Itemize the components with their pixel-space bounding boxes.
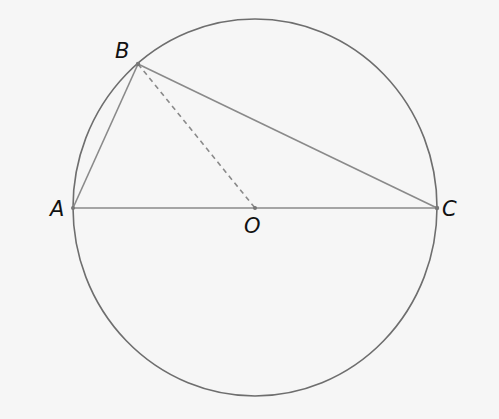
geometry-diagram: A B C O	[0, 0, 499, 419]
diagram-canvas: A B C O	[0, 0, 499, 419]
point-c	[435, 206, 439, 210]
segment-bo-dashed	[138, 64, 255, 208]
label-b: B	[115, 39, 129, 63]
label-a: A	[48, 197, 64, 221]
segment-bc	[138, 64, 437, 208]
point-a	[71, 206, 75, 210]
point-b	[136, 62, 140, 66]
segment-ab	[73, 64, 138, 208]
label-c: C	[442, 197, 457, 221]
label-o: O	[244, 214, 261, 238]
point-o	[253, 206, 257, 210]
